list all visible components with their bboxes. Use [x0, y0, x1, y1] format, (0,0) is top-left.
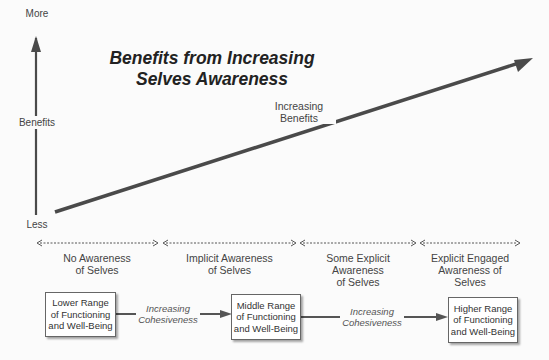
transition-label-cohesiveness-1: Increasing Cohesiveness	[136, 303, 200, 325]
outcome-box-middle-range: Middle Range of Functioning and Well-Bei…	[231, 294, 301, 340]
stage-label-explicit-engaged-awareness: Explicit Engaged Awareness of Selves	[420, 252, 520, 288]
stage-label-implicit-awareness: Implicit Awareness of Selves	[163, 252, 296, 276]
outcome-box-lower-range: Lower Range of Functioning and Well-Bein…	[45, 292, 116, 337]
y-axis-label-less: Less	[22, 219, 52, 230]
diagram-title: Benefits from Increasing Selves Awarenes…	[92, 48, 332, 90]
stage-range-arrows	[37, 240, 520, 246]
stage-label-some-explicit-awareness: Some Explicit Awareness of Selves	[300, 252, 416, 288]
outcome-box-higher-range: Higher Range of Functioning and Well-Bei…	[448, 297, 518, 343]
y-axis-label-benefits: Benefits	[14, 116, 60, 129]
y-axis-label-more: More	[24, 8, 50, 19]
transition-label-cohesiveness-2: Increasing Cohesiveness	[340, 306, 404, 328]
stage-label-no-awareness: No Awareness of Selves	[36, 252, 158, 276]
increasing-benefits-label: Increasing Benefits	[262, 100, 336, 124]
